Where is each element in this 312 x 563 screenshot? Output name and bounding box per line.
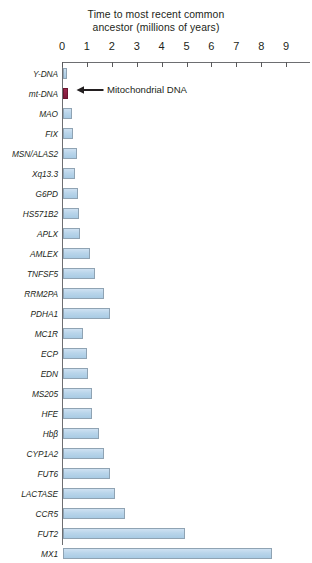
bar-row-label: HFE [0,404,58,424]
mitochondrial-dna-annotation: Mitochondrial DNA [76,81,187,98]
bar [63,408,92,419]
bar-row: EDN [0,364,312,384]
bar-row-label: MC1R [0,324,58,344]
bar-row: MS205 [0,384,312,404]
annotation-label: Mitochondrial DNA [107,81,187,98]
bar-row-label: APLX [0,224,58,244]
bar-row: TNFSF5 [0,264,312,284]
bar-row-label: HS571B2 [0,204,58,224]
bar-row: MAO [0,104,312,124]
x-axis-tick-label: 3 [126,40,148,53]
bar [63,268,95,279]
x-axis-tick-label: 1 [76,40,98,53]
bar-row: ECP [0,344,312,364]
bar [63,248,90,259]
bar-row: FUT6 [0,464,312,484]
bar-row-label: ECP [0,344,58,364]
bar-row: APLX [0,224,312,244]
bar [63,108,72,119]
bar-row: FIX [0,124,312,144]
bar-row-label: MSN/ALAS2 [0,144,58,164]
x-axis-tick-label: 0 [51,40,73,53]
bar-row-label: Hbβ [0,424,58,444]
x-axis-tick-label: 5 [176,40,198,53]
bar-row: PDHA1 [0,304,312,324]
bar-row: HS571B2 [0,204,312,224]
bar-row: Hbβ [0,424,312,444]
x-axis-tick-label: 9 [275,40,297,53]
x-axis-tick-label: 8 [250,40,272,53]
x-axis-tick-label: 4 [151,40,173,53]
bar [63,368,88,379]
bar-row-label: MAO [0,104,58,124]
bar-row-label: AMLEX [0,244,58,264]
bar [63,288,104,299]
bar [63,128,73,139]
bar [63,448,104,459]
x-axis-tick-label: 7 [225,40,247,53]
bar-row: AMLEX [0,244,312,264]
bar-row: RRM2PA [0,284,312,304]
bar-row-label: FUT2 [0,524,58,544]
left-arrow-icon [76,85,104,95]
bar-row: FUT2 [0,524,312,544]
bar-row: CCR5 [0,504,312,524]
bar-row: HFE [0,404,312,424]
bar-row-label: CCR5 [0,504,58,524]
bar-row: Xq13.3 [0,164,312,184]
bar-row-label: RRM2PA [0,284,58,304]
bar-row: MC1R [0,324,312,344]
bar [63,548,272,559]
bar [63,488,115,499]
bar [63,168,75,179]
bar [63,388,92,399]
bar [63,508,125,519]
bar [63,328,83,339]
bar [63,308,110,319]
bar [63,468,110,479]
bar-row-label: Xq13.3 [0,164,58,184]
x-axis-tick-label: 6 [200,40,222,53]
bar-row: CYP1A2 [0,444,312,464]
bar [63,528,185,539]
bar-row: G6PD [0,184,312,204]
bar-row-label: MX1 [0,544,58,563]
bar-row-label: PDHA1 [0,304,58,324]
bar-row-label: EDN [0,364,58,384]
bar-row-label: mt-DNA [0,84,58,104]
bar [63,148,77,159]
bar [63,228,80,239]
x-axis-tick-label: 2 [101,40,123,53]
bar-row: MSN/ALAS2 [0,144,312,164]
bar [63,68,67,79]
bar-row-label: FIX [0,124,58,144]
bar [63,428,99,439]
bar-row: LACTASE [0,484,312,504]
bar-row-label: Y-DNA [0,64,58,84]
bar-row-label: G6PD [0,184,58,204]
bar [63,208,79,219]
bar-row-label: FUT6 [0,464,58,484]
bar-row-label: TNFSF5 [0,264,58,284]
bar-row: MX1 [0,544,312,563]
bar [63,188,78,199]
bar [63,88,68,99]
bar-row-label: MS205 [0,384,58,404]
bar-row-label: CYP1A2 [0,444,58,464]
bar-row-label: LACTASE [0,484,58,504]
bar [63,348,87,359]
